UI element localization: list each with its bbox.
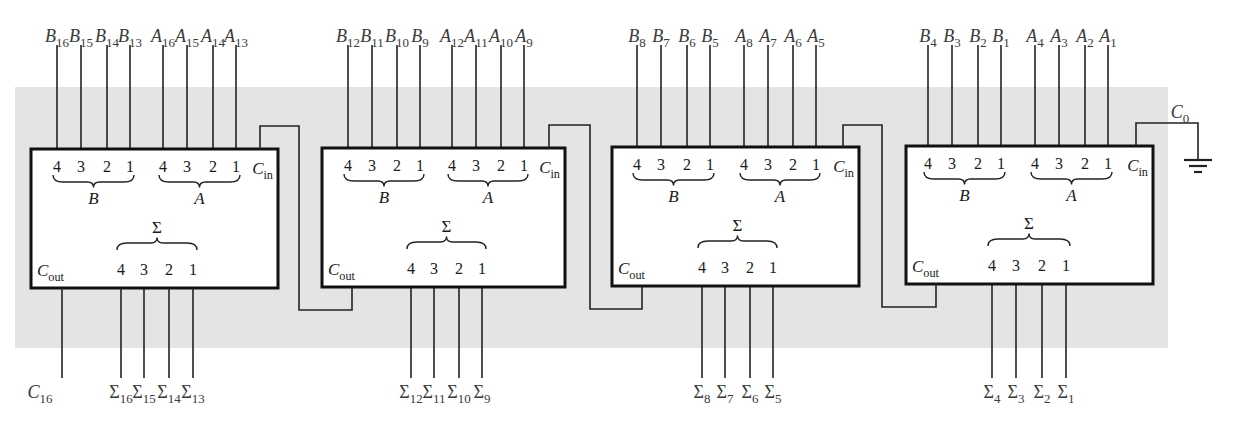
pin-number: 2 [683, 156, 691, 173]
pin-number: 3 [657, 156, 665, 173]
b-group-label: B [668, 187, 679, 206]
b-input-label: B10 [385, 26, 409, 50]
adder-bits-16-13: B16B15B14B13A16A15A14A13Σ16Σ15Σ14Σ134321… [31, 26, 278, 406]
pin-number: 4 [633, 156, 641, 173]
pin-number: 1 [126, 158, 134, 175]
ripple-carry-adder-diagram: B16B15B14B13A16A15A14A13Σ16Σ15Σ14Σ134321… [0, 0, 1235, 426]
sum-pin-number: 4 [988, 257, 996, 274]
sum-output-label: Σ13 [181, 382, 204, 406]
adder-bits-8-5: B8B7B6B5A8A7A6A5Σ8Σ7Σ6Σ543214321BACin432… [612, 26, 859, 406]
a-input-label: A16 [150, 26, 175, 50]
pin-number: 1 [812, 156, 820, 173]
pin-number: 1 [997, 155, 1005, 172]
pin-number: 4 [53, 158, 61, 175]
sum-group-label: Σ [442, 217, 452, 236]
sum-output-label: Σ7 [717, 382, 734, 406]
pin-number: 3 [183, 158, 191, 175]
a-input-label: A11 [463, 26, 487, 50]
adder-bits-4-1: B4B3B2B1A4A3A2A1Σ4Σ3Σ2Σ143214321BACin432… [906, 26, 1153, 406]
sum-output-label: Σ5 [765, 382, 782, 406]
sum-output-label: Σ4 [984, 382, 1001, 406]
carry-out-c16-label: C16 [28, 382, 53, 406]
sum-output-label: Σ3 [1008, 382, 1025, 406]
pin-number: 3 [1055, 155, 1063, 172]
sum-pin-number: 2 [746, 259, 754, 276]
sum-pin-number: 2 [455, 260, 463, 277]
sum-pin-number: 3 [721, 259, 729, 276]
sum-pin-number: 2 [165, 261, 173, 278]
sum-group-label: Σ [1024, 214, 1034, 233]
pin-number: 3 [368, 157, 376, 174]
pin-number: 3 [948, 155, 956, 172]
pin-number: 2 [209, 158, 217, 175]
b-input-label: B13 [118, 26, 142, 50]
pin-number: 3 [77, 158, 85, 175]
sum-pin-number: 1 [189, 261, 197, 278]
a-group-label: A [774, 187, 786, 206]
pin-number: 2 [789, 156, 797, 173]
sum-output-label: Σ11 [423, 382, 446, 406]
sum-pin-number: 3 [140, 261, 148, 278]
pin-number: 2 [497, 157, 505, 174]
sum-output-label: Σ9 [474, 382, 491, 406]
sum-pin-number: 4 [407, 260, 415, 277]
pin-number: 2 [974, 155, 982, 172]
a-group-label: A [193, 189, 205, 208]
sum-pin-number: 4 [698, 259, 706, 276]
adder-bits-12-9: B12B11B10B9A12A11A10A9Σ12Σ11Σ10Σ94321432… [322, 26, 565, 406]
a-input-label: A12 [439, 26, 464, 50]
pin-number: 4 [448, 157, 456, 174]
sum-output-label: Σ14 [157, 382, 181, 406]
sum-output-label: Σ16 [109, 382, 133, 406]
pin-number: 4 [924, 155, 932, 172]
sum-output-label: Σ2 [1034, 382, 1051, 406]
a-group-label: A [482, 188, 494, 207]
b-group-label: B [379, 188, 390, 207]
sum-group-label: Σ [733, 216, 743, 235]
a-input-label: A13 [223, 26, 248, 50]
pin-number: 4 [159, 158, 167, 175]
sum-output-label: Σ1 [1058, 382, 1075, 406]
sum-output-label: Σ15 [132, 382, 155, 406]
sum-pin-number: 1 [478, 260, 486, 277]
pin-number: 1 [520, 157, 528, 174]
pin-number: 3 [472, 157, 480, 174]
sum-pin-number: 3 [1012, 257, 1020, 274]
sum-pin-number: 3 [430, 260, 438, 277]
sum-output-label: Σ12 [399, 382, 422, 406]
pin-number: 1 [706, 156, 714, 173]
sum-output-label: Σ6 [742, 382, 759, 406]
b-input-label: B14 [95, 26, 119, 50]
pin-number: 1 [232, 158, 240, 175]
b-input-label: B11 [360, 26, 383, 50]
b-input-label: B16 [45, 26, 69, 50]
a-input-label: A10 [488, 26, 513, 50]
b-input-label: B12 [336, 26, 360, 50]
b-input-label: B15 [69, 26, 93, 50]
pin-number: 4 [344, 157, 352, 174]
a-group-label: A [1065, 186, 1077, 205]
pin-number: 3 [764, 156, 772, 173]
pin-number: 1 [1104, 155, 1112, 172]
sum-output-label: Σ8 [694, 382, 711, 406]
sum-output-label: Σ10 [447, 382, 470, 406]
b-group-label: B [959, 186, 970, 205]
pin-number: 1 [416, 157, 424, 174]
pin-number: 2 [103, 158, 111, 175]
pin-number: 4 [1031, 155, 1039, 172]
a-input-label: A15 [174, 26, 199, 50]
sum-group-label: Σ [152, 218, 162, 237]
pin-number: 4 [740, 156, 748, 173]
pin-number: 2 [1081, 155, 1089, 172]
pin-number: 2 [393, 157, 401, 174]
b-group-label: B [88, 189, 99, 208]
ground-icon [1184, 160, 1212, 172]
a-input-label: A14 [200, 26, 225, 50]
sum-pin-number: 4 [117, 261, 125, 278]
sum-pin-number: 1 [769, 259, 777, 276]
sum-pin-number: 1 [1062, 257, 1070, 274]
sum-pin-number: 2 [1038, 257, 1046, 274]
